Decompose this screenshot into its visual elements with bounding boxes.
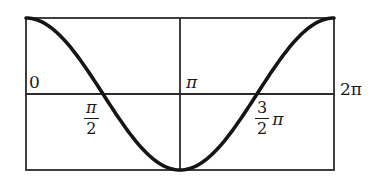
three-half-fraction: 3 2 [255,100,269,137]
three-half-numerator: 3 [255,100,269,118]
label-three-half-pi: 3 2 π [255,100,283,137]
half-pi-numerator: π [84,100,99,118]
three-half-pi-suffix: π [272,109,283,129]
three-half-denominator: 2 [257,119,267,137]
label-half-pi: π 2 [84,100,99,137]
cosine-diagram: 0 π 2π π 2 3 2 π [0,0,379,184]
label-zero: 0 [29,74,40,91]
label-two-pi: 2π [340,81,362,98]
graph-canvas [0,0,379,184]
half-pi-denominator: 2 [86,119,96,137]
label-two-pi-text: 2π [340,79,362,99]
label-pi: π [186,74,197,91]
